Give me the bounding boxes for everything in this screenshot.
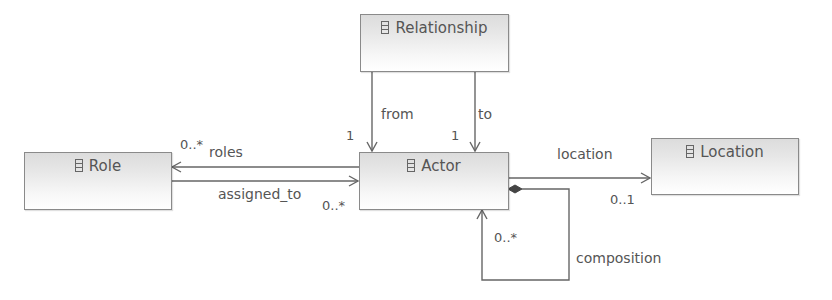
label-to: to	[478, 106, 492, 122]
class-actor[interactable]: Actor	[359, 152, 509, 210]
class-name: Role	[89, 157, 121, 175]
multiplicity-to: 1	[451, 128, 459, 143]
multiplicity-composition: 0..*	[494, 230, 517, 245]
class-icon	[686, 145, 694, 158]
class-name: Relationship	[395, 19, 487, 37]
class-name: Location	[700, 143, 763, 161]
class-header: Relationship	[361, 19, 508, 37]
class-icon	[381, 21, 389, 34]
class-relationship[interactable]: Relationship	[360, 14, 509, 72]
composition-diamond-icon	[508, 185, 522, 193]
class-header: Location	[652, 143, 798, 161]
label-from: from	[381, 106, 414, 122]
multiplicity-roles: 0..*	[180, 137, 203, 152]
label-roles: roles	[209, 144, 243, 160]
class-icon	[75, 159, 83, 172]
multiplicity-from: 1	[346, 128, 354, 143]
class-header: Role	[25, 157, 171, 175]
multiplicity-assigned-to: 0..*	[322, 198, 345, 213]
label-composition: composition	[576, 250, 661, 266]
class-role[interactable]: Role	[24, 152, 172, 210]
label-location: location	[557, 146, 613, 162]
class-name: Actor	[421, 157, 460, 175]
class-location[interactable]: Location	[651, 138, 799, 195]
class-header: Actor	[360, 157, 508, 175]
label-assigned-to: assigned_to	[218, 186, 301, 202]
class-icon	[407, 159, 415, 172]
multiplicity-location: 0..1	[610, 192, 635, 207]
